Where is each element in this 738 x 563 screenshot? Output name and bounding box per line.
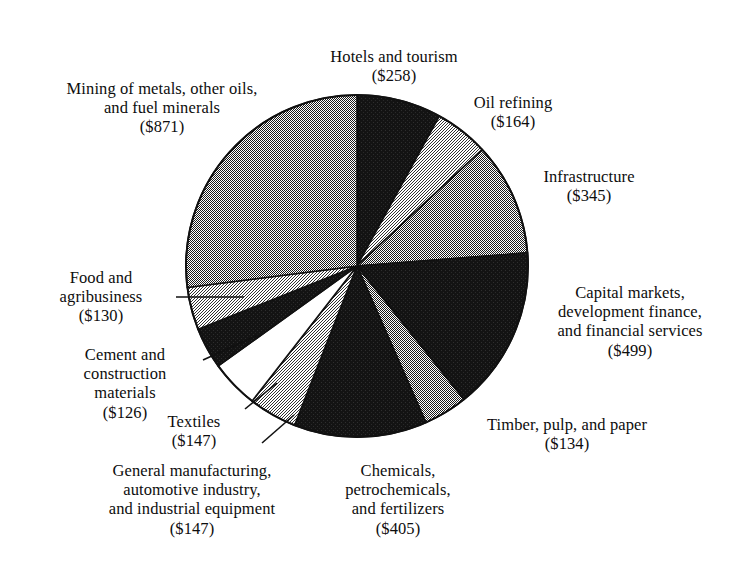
slice-label-name: Oil refining bbox=[474, 93, 553, 112]
slice-label-value: ($499) bbox=[524, 341, 736, 360]
slice-label-capital-markets: Capital markets, development finance, an… bbox=[524, 264, 736, 379]
slice-label-name: Food and agribusiness bbox=[60, 268, 143, 306]
slice-label-value: ($345) bbox=[500, 186, 678, 205]
slice-label-value: ($130) bbox=[26, 306, 176, 325]
slice-label-value: ($405) bbox=[310, 519, 486, 538]
slice-label-value: ($147) bbox=[62, 519, 322, 538]
slice-label-chemicals: Chemicals, petrochemicals, and fertilize… bbox=[310, 442, 486, 557]
slice-label-infrastructure: Infrastructure ($345) bbox=[500, 148, 678, 225]
slice-label-name: General manufacturing, automotive indust… bbox=[109, 461, 275, 518]
leader-line-genmfg bbox=[262, 415, 294, 443]
slice-label-name: Mining of metals, other oils, and fuel m… bbox=[67, 79, 258, 117]
slice-label-name: Infrastructure bbox=[543, 167, 634, 186]
slice-label-name: Cement and construction materials bbox=[84, 345, 167, 402]
pie-chart-figure: Hotels and tourism ($258) Oil refining (… bbox=[0, 0, 738, 563]
slice-label-value: ($126) bbox=[42, 403, 208, 422]
slice-label-value: ($164) bbox=[437, 112, 589, 131]
slice-label-name: Timber, pulp, and paper bbox=[487, 415, 647, 434]
slice-label-oil-refining: Oil refining ($164) bbox=[437, 74, 589, 151]
slice-label-name: Capital markets, development finance, an… bbox=[557, 283, 702, 340]
slice-label-name: Hotels and tourism bbox=[330, 47, 457, 66]
slice-label-food-and-agribusiness: Food and agribusiness ($130) bbox=[26, 249, 176, 345]
slice-label-value: ($871) bbox=[46, 117, 278, 136]
slice-label-mining-of-metals: Mining of metals, other oils, and fuel m… bbox=[46, 60, 278, 156]
slice-label-name: Chemicals, petrochemicals, and fertilize… bbox=[345, 461, 451, 518]
